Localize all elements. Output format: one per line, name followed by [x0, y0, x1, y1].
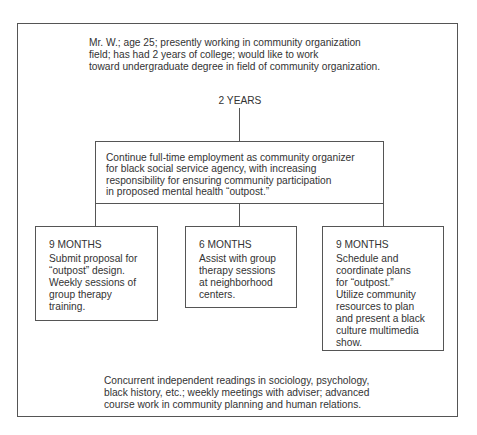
intro-line: Mr. W.; age 25; presently working in com…: [89, 37, 429, 49]
main-goal-box: Continue full-time employment as communi…: [95, 141, 384, 204]
phase-line: Assist with group: [199, 253, 276, 265]
footer-text: Concurrent independent readings in socio…: [104, 375, 404, 411]
main-line: responsibility for ensuring community pa…: [106, 175, 381, 186]
phase-line: resources to plan: [336, 301, 425, 313]
footer-line: course work in community planning and hu…: [104, 399, 404, 411]
intro-line: field; has had 2 years of college; would…: [89, 49, 429, 61]
phase-line: and present a black: [336, 313, 425, 325]
phase-line: “outpost” design.: [49, 265, 137, 277]
phase-line: group therapy: [49, 289, 137, 301]
phase-line: Schedule and: [336, 253, 425, 265]
phase-line: show.: [336, 337, 425, 349]
phase-line: centers.: [199, 289, 276, 301]
outer-frame: [17, 23, 458, 417]
phase-line: for “outpost.”: [336, 277, 425, 289]
footer-line: Concurrent independent readings in socio…: [104, 375, 404, 387]
connector-left: [95, 203, 96, 227]
intro-text: Mr. W.; age 25; presently working in com…: [89, 37, 429, 73]
intro-line: toward undergraduate degree in field of …: [89, 61, 429, 73]
connector-right: [383, 203, 384, 227]
phase-line: culture multimedia: [336, 325, 425, 337]
phase-line: Utilize community: [336, 289, 425, 301]
phase-title: 9 MONTHS: [49, 239, 137, 251]
phase-line: Weekly sessions of: [49, 277, 137, 289]
phase-line: Submit proposal for: [49, 253, 137, 265]
main-line: in proposed mental health “outpost.”: [106, 186, 381, 197]
phase-line: training.: [49, 301, 137, 313]
main-line: for black social service agency, with in…: [106, 163, 381, 174]
phase-line: therapy sessions: [199, 265, 276, 277]
main-line: Continue full-time employment as communi…: [106, 152, 381, 163]
phase-title: 6 MONTHS: [199, 239, 276, 251]
phase-box-2: 6 MONTHS Assist with group therapy sessi…: [185, 226, 297, 308]
phase-title: 9 MONTHS: [336, 239, 425, 251]
connector-top: [239, 108, 240, 142]
connector-middle: [239, 203, 240, 227]
footer-line: black history, etc.; weekly meetings wit…: [104, 387, 404, 399]
duration-label: 2 YEARS: [200, 95, 280, 106]
phase-box-3: 9 MONTHS Schedule and coordinate plans f…: [322, 226, 444, 351]
phase-box-1: 9 MONTHS Submit proposal for “outpost” d…: [35, 226, 158, 321]
phase-line: coordinate plans: [336, 265, 425, 277]
phase-line: at neighborhood: [199, 277, 276, 289]
